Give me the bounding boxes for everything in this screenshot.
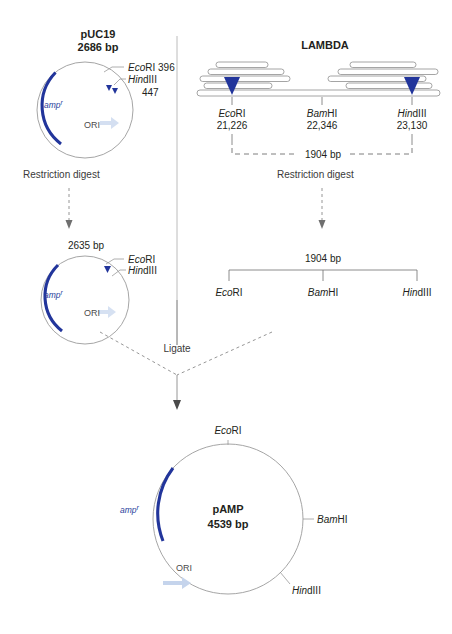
puc19-title: pUC19: [81, 28, 116, 40]
digest-right-arrow-head: [319, 220, 326, 229]
pamp-site-ecori: EcoRI: [214, 425, 241, 436]
lambda-title: LAMBDA: [301, 39, 349, 51]
puc19-amp-label: ampr: [44, 99, 64, 110]
puc19-ori-arrow-icon: [100, 117, 119, 129]
digest-left-arrow-head: [66, 220, 73, 229]
lambda-fragment-bar: [204, 83, 272, 89]
lambda-site-bamhi: BamHI: [307, 108, 338, 119]
pamp-site-hindiii: HindIII: [292, 585, 321, 596]
puc19-site-ecori: EcoRI 396: [128, 62, 175, 73]
puc19-site-hindiii: HindIII: [128, 74, 157, 85]
puc19-hindiii-cut-icon: [112, 88, 118, 94]
pamp-ori-arrow-icon: [163, 577, 191, 589]
lambda-span-label: 1904 bp: [305, 149, 342, 160]
pamp-amp-label: ampr: [120, 504, 140, 515]
ligate-label: Ligate: [163, 343, 191, 354]
cloning-diagram: pUC19 2686 bp ampr ORI EcoRI 396 HindIII…: [0, 0, 452, 634]
vector-amp-label: ampr: [44, 289, 64, 300]
vector-ori-arrow-icon: [98, 306, 116, 318]
lambda-fragment-bar: [208, 69, 284, 75]
lambda-fragment-bar: [350, 62, 416, 68]
lambda-pos-bamhi: 22,346: [307, 120, 338, 131]
puc19-ori-label: ORI: [84, 120, 100, 130]
puc19-size: 2686 bp: [78, 41, 119, 53]
insert-site-bamhi: BamHI: [308, 287, 339, 298]
ligate-arrow-head: [173, 400, 181, 410]
insert-site-hindiii: HindIII: [403, 287, 432, 298]
lambda-site-hindiii: HindIII: [398, 108, 427, 119]
vector-hindiii-leader: [112, 270, 126, 276]
pamp-size: 4539 bp: [208, 518, 249, 530]
pamp-title: pAMP: [212, 503, 243, 515]
insert-span-label: 1904 bp: [305, 253, 342, 264]
lambda-pos-ecori: 21,226: [217, 120, 248, 131]
puc19-hindiii-position: 447: [142, 87, 159, 98]
lambda-fragment-bar: [346, 83, 432, 89]
lambda-pos-hindiii: 23,130: [397, 120, 428, 131]
pamp-ori-label: ORI: [176, 563, 192, 573]
diagram-canvas: pUC19 2686 bp ampr ORI EcoRI 396 HindIII…: [0, 0, 452, 634]
vector-site-ecori: EcoRI: [128, 254, 155, 265]
pamp-hindiii-leader: [280, 572, 290, 584]
puc19-ecori-cut-icon: [106, 85, 112, 91]
lambda-span-bracket-left: [232, 148, 298, 154]
digest-left-label: Restriction digest: [23, 169, 100, 180]
digest-right-label: Restriction digest: [277, 169, 354, 180]
pamp-site-bamhi: BamHI: [317, 514, 348, 525]
lambda-fragment-bar: [338, 69, 438, 75]
vector-site-hindiii: HindIII: [128, 265, 157, 276]
lambda-fragment-bar: [200, 76, 290, 82]
vector-size: 2635 bp: [68, 240, 105, 251]
ligate-converge-right: [177, 332, 272, 375]
pamp-amp-arc: [158, 468, 173, 541]
lambda-fragment-bar: [216, 62, 268, 68]
lambda-span-bracket-right: [348, 148, 412, 154]
vector-ori-label: ORI: [84, 308, 100, 318]
vector-cut-icon: [104, 266, 111, 273]
insert-site-ecori: EcoRI: [215, 287, 242, 298]
lambda-site-ecori: EcoRI: [218, 108, 245, 119]
